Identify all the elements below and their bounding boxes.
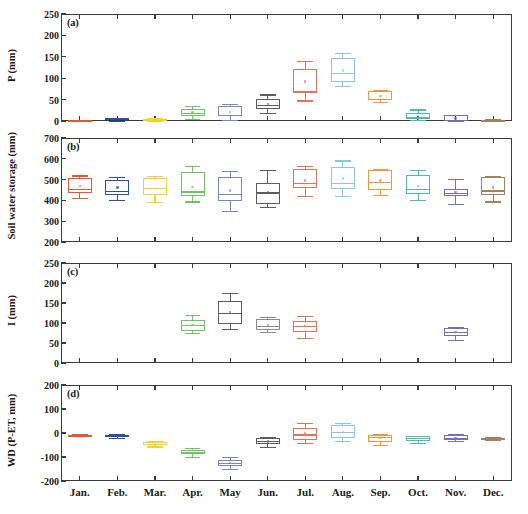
x-axis-label-feb: Feb. xyxy=(107,486,127,498)
x-tick-mark-top xyxy=(342,14,343,19)
cap-upper xyxy=(147,176,163,177)
cap-lower xyxy=(185,333,201,334)
x-tick-mark xyxy=(192,358,193,363)
x-tick-mark xyxy=(342,237,343,242)
x-tick-mark xyxy=(117,476,118,481)
mean-marker xyxy=(191,324,193,326)
cap-lower xyxy=(410,443,426,444)
median-line xyxy=(218,194,242,195)
x-tick-mark-top xyxy=(342,138,343,143)
x-tick-mark xyxy=(79,476,80,481)
cap-upper xyxy=(109,434,125,435)
x-tick-mark xyxy=(380,237,381,242)
x-tick-mark-top xyxy=(230,263,231,268)
median-line xyxy=(256,326,280,327)
cap-upper xyxy=(147,441,163,442)
cap-lower xyxy=(335,196,351,197)
x-tick-mark xyxy=(380,476,381,481)
cap-lower xyxy=(373,102,389,103)
cap-upper xyxy=(373,169,389,170)
x-tick-mark xyxy=(342,358,343,363)
cap-upper xyxy=(485,176,501,177)
mean-marker xyxy=(267,324,269,326)
cap-upper xyxy=(222,457,238,458)
cap-lower xyxy=(147,121,163,122)
panel-c: (c) xyxy=(61,263,512,363)
x-tick-mark xyxy=(493,358,494,363)
x-tick-mark xyxy=(192,476,193,481)
x-tick-mark xyxy=(230,358,231,363)
cap-upper xyxy=(147,118,163,119)
median-line xyxy=(481,190,505,191)
whisker-lower xyxy=(230,201,231,211)
x-tick-mark-top xyxy=(417,385,418,390)
x-tick-mark-top xyxy=(455,263,456,268)
whisker-lower xyxy=(154,195,155,202)
x-tick-mark-top xyxy=(267,138,268,143)
cap-upper xyxy=(297,423,313,424)
cap-upper xyxy=(335,53,351,54)
panel-d: (d) xyxy=(61,385,512,481)
x-tick-mark-top xyxy=(380,385,381,390)
cap-lower xyxy=(260,113,276,114)
x-tick-mark xyxy=(192,237,193,242)
median-line xyxy=(368,182,392,183)
cap-upper xyxy=(109,118,125,119)
whisker-lower xyxy=(455,196,456,204)
y-axis-label-b: Soil water storage (mm) xyxy=(6,136,17,240)
x-tick-mark xyxy=(305,476,306,481)
x-tick-mark-top xyxy=(154,263,155,268)
whisker-upper xyxy=(230,293,231,301)
x-tick-mark-top xyxy=(455,138,456,143)
cap-lower xyxy=(222,469,238,470)
mean-marker xyxy=(454,437,456,439)
cap-lower xyxy=(260,332,276,333)
x-tick-mark xyxy=(154,476,155,481)
x-tick-mark xyxy=(79,237,80,242)
x-tick-mark xyxy=(455,476,456,481)
x-tick-mark xyxy=(493,237,494,242)
x-tick-mark-top xyxy=(493,263,494,268)
cap-upper xyxy=(448,434,464,435)
x-tick-mark-top xyxy=(230,385,231,390)
x-axis-label-oct: Oct. xyxy=(408,486,428,498)
x-tick-mark xyxy=(154,237,155,242)
x-tick-mark-top xyxy=(342,385,343,390)
x-tick-mark-top xyxy=(380,14,381,19)
cap-lower xyxy=(373,195,389,196)
panel-label-b: (b) xyxy=(67,141,79,152)
x-tick-mark-top xyxy=(117,263,118,268)
x-tick-mark xyxy=(267,476,268,481)
cap-lower xyxy=(485,121,501,122)
cap-upper xyxy=(185,448,201,449)
x-axis-label-nov: Nov. xyxy=(445,486,466,498)
cap-lower xyxy=(72,121,88,122)
cap-lower xyxy=(297,443,313,444)
whisker-lower xyxy=(493,195,494,202)
cap-lower xyxy=(335,86,351,87)
cap-lower xyxy=(373,445,389,446)
x-axis-label-mar: Mar. xyxy=(144,486,167,498)
panel-label-c: (c) xyxy=(67,266,78,277)
median-line xyxy=(218,313,242,314)
cap-lower xyxy=(109,121,125,122)
mean-marker xyxy=(342,177,344,179)
cap-upper xyxy=(185,315,201,316)
x-tick-mark xyxy=(380,358,381,363)
x-tick-mark-top xyxy=(342,263,343,268)
x-tick-mark xyxy=(305,237,306,242)
cap-lower xyxy=(185,119,201,120)
cap-lower xyxy=(222,329,238,330)
x-axis-label-sep: Sep. xyxy=(371,486,391,498)
x-tick-mark xyxy=(117,358,118,363)
cap-upper xyxy=(260,437,276,438)
mean-marker xyxy=(267,440,269,442)
x-tick-mark xyxy=(230,237,231,242)
cap-upper xyxy=(297,61,313,62)
whisker-lower xyxy=(418,194,419,201)
cap-upper xyxy=(448,115,464,116)
cap-upper xyxy=(260,170,276,171)
x-tick-mark-top xyxy=(417,138,418,143)
median-line xyxy=(181,452,205,453)
panel-label-d: (d) xyxy=(67,388,79,399)
